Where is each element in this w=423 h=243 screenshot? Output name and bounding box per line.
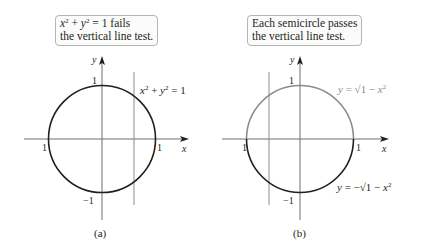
callout-rest: = 1 fails	[89, 17, 130, 29]
panel-b-callout: Each semicircle passes the vertical line…	[247, 15, 362, 46]
panel-b-upper-equation: y = √1 − x2	[338, 83, 386, 95]
panel-a-tick-bottom: −1	[83, 196, 94, 206]
eq-exp: 2	[388, 181, 392, 189]
panel-a-callout: x2 + y2 = 1 fails the vertical line test…	[55, 15, 158, 46]
panel-b-caption: (b)	[293, 227, 306, 239]
panel-a-caption: (a)	[94, 227, 106, 239]
eq-exp: 2	[383, 83, 387, 91]
eq-mid: = −√1 −	[342, 181, 383, 193]
panel-a-callout-line2: the vertical line test.	[60, 30, 153, 43]
panel-b-tick-left: 1	[242, 143, 247, 153]
eq-rest: = 1	[169, 84, 186, 96]
panel-b-graph	[222, 56, 389, 220]
panel-a-tick-left: 1	[42, 143, 47, 153]
panel-a-graph	[24, 56, 189, 220]
panel-b-x-label: x	[382, 144, 386, 154]
eq-plus: +	[148, 84, 160, 96]
panel-b-callout-line1: Each semicircle passes	[252, 17, 357, 30]
panel-a-equation: x2 + y2 = 1	[140, 84, 186, 96]
eq-mid: = √1 −	[343, 83, 378, 95]
panel-b-lower-equation: y = −√1 − x2	[337, 181, 391, 193]
panel-b-callout-line2: the vertical line test.	[252, 30, 357, 43]
panel-a-tick-right: 1	[157, 143, 162, 153]
panel-a-x-label: x	[182, 144, 186, 154]
panel-a-tick-top: 1	[92, 76, 97, 86]
panel-a-callout-line1: x2 + y2 = 1 fails	[60, 17, 153, 30]
panel-b-tick-right: 1	[356, 143, 361, 153]
callout-plus: +	[69, 17, 81, 29]
panel-b-tick-top: 1	[289, 76, 294, 86]
panel-a-y-label: y	[92, 55, 96, 65]
panel-b-y-label: y	[290, 55, 294, 65]
panel-b-tick-bottom: −1	[283, 196, 294, 206]
